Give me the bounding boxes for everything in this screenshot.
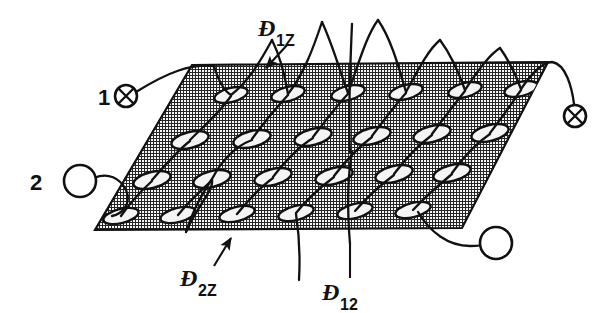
species-2-label: 2 xyxy=(30,170,42,195)
label-d12-base: Ð xyxy=(321,279,339,305)
species-1-label: 1 xyxy=(98,85,110,110)
label-d1z: Ð 1Z xyxy=(257,15,295,49)
label-d1z-sub: 1Z xyxy=(276,32,295,49)
label-d12-sub: 12 xyxy=(340,296,358,313)
label-d2z-sub: 2Z xyxy=(198,282,217,299)
diffusion-membrane-diagram: 1 2 Ð 1Z Ð 2Z Ð 12 xyxy=(0,0,612,313)
label-d2z-base: Ð xyxy=(179,265,197,291)
species-1-marker-exit xyxy=(564,105,586,127)
species-1-marker-entry xyxy=(115,85,137,107)
open-circle-icon xyxy=(64,165,96,197)
figure-canvas: 1 2 Ð 1Z Ð 2Z Ð 12 xyxy=(0,0,612,313)
open-circle-icon xyxy=(480,227,512,259)
label-d12: Ð 12 xyxy=(321,279,358,313)
leader-d2z xyxy=(214,238,231,266)
label-d2z: Ð 2Z xyxy=(179,265,217,299)
label-d1z-base: Ð xyxy=(257,15,275,41)
